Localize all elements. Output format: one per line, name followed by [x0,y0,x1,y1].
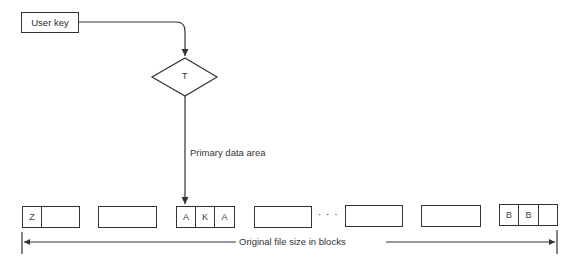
file-block-7: B B [499,204,558,226]
file-block-5 [345,205,403,227]
file-block-3: A K A [176,206,235,228]
block-cell [346,206,402,226]
user-key-label: User key [31,17,68,28]
file-block-4 [254,206,312,228]
primary-data-area-label: Primary data area [190,147,266,158]
block-cell [99,207,156,227]
block-cell [42,207,79,227]
key-to-transform-arrow [78,22,185,56]
ellipsis: · · · [318,209,339,220]
file-block-1: Z [22,206,80,228]
file-size-label: Original file size in blocks [239,236,346,247]
block-cell: B [519,205,539,225]
block-cell: Z [23,207,42,227]
block-cell [422,206,480,226]
block-cell: A [215,207,234,227]
block-cell: B [500,205,519,225]
file-block-2 [98,206,157,228]
file-block-6 [421,205,481,227]
transform-label: T [182,71,188,81]
block-cell: K [196,207,215,227]
block-cell [539,205,557,225]
user-key-box: User key [21,12,79,33]
block-cell [255,207,311,227]
block-cell: A [177,207,196,227]
